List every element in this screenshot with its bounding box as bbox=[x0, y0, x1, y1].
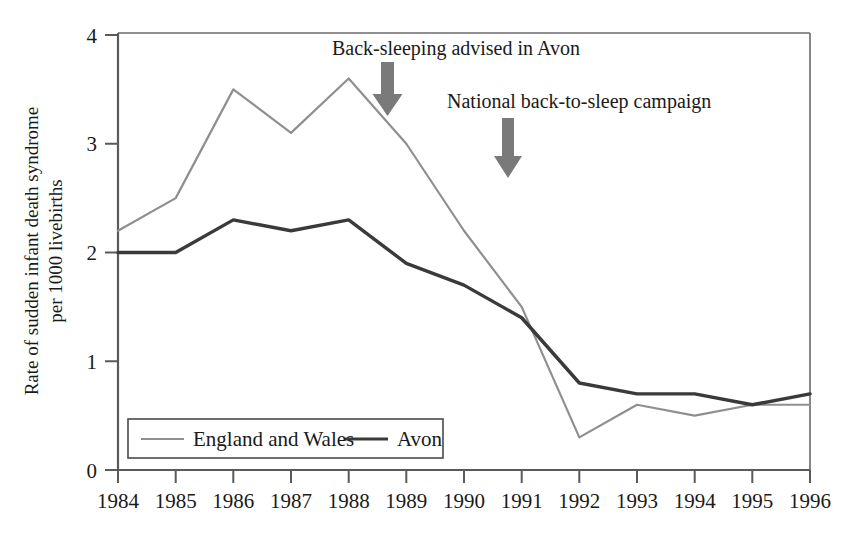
y-tick-label-3: 3 bbox=[87, 132, 98, 156]
down-arrow-icon-national-campaign bbox=[494, 118, 522, 178]
y-axis-title-line2: per 1000 livebirths bbox=[45, 179, 66, 323]
data-series-group bbox=[118, 79, 810, 438]
annotation-label-back-sleeping-avon: Back-sleeping advised in Avon bbox=[332, 37, 580, 60]
chart-legend[interactable]: England and Wales Avon bbox=[128, 419, 443, 458]
y-tick-label-2: 2 bbox=[87, 241, 98, 265]
annotation-national-campaign: National back-to-sleep campaign bbox=[447, 90, 711, 178]
y-tick-label-1: 1 bbox=[87, 350, 98, 374]
annotation-label-national-campaign: National back-to-sleep campaign bbox=[447, 90, 711, 113]
x-tick-label-1994: 1994 bbox=[674, 489, 717, 513]
down-arrow-icon-back-sleeping-avon bbox=[373, 62, 403, 116]
x-tick-label-1991: 1991 bbox=[501, 489, 543, 513]
x-tick-label-1986: 1986 bbox=[212, 489, 254, 513]
y-axis-title: Rate of sudden infant death syndrome per… bbox=[21, 107, 66, 396]
x-tick-label-1985: 1985 bbox=[155, 489, 197, 513]
y-axis-ticks bbox=[105, 35, 118, 470]
x-tick-label-1996: 1996 bbox=[789, 489, 831, 513]
x-tick-label-1989: 1989 bbox=[385, 489, 427, 513]
legend-label-avon: Avon bbox=[397, 427, 443, 451]
x-axis-tick-labels: 1984 1985 1986 1987 1988 1989 1990 1991 … bbox=[97, 489, 831, 513]
y-axis-title-line1: Rate of sudden infant death syndrome bbox=[21, 107, 42, 396]
x-tick-label-1992: 1992 bbox=[558, 489, 600, 513]
x-tick-label-1993: 1993 bbox=[616, 489, 658, 513]
x-axis-ticks bbox=[118, 470, 810, 483]
x-tick-label-1987: 1987 bbox=[270, 489, 312, 513]
y-tick-label-4: 4 bbox=[87, 24, 98, 48]
x-tick-label-1984: 1984 bbox=[97, 489, 140, 513]
x-tick-label-1988: 1988 bbox=[328, 489, 370, 513]
x-tick-label-1990: 1990 bbox=[443, 489, 485, 513]
chart-canvas: 0 1 2 3 4 Rate of sudden infant death sy… bbox=[0, 0, 864, 539]
legend-label-england-and-wales: England and Wales bbox=[193, 427, 354, 451]
series-line-england-and-wales bbox=[118, 79, 810, 438]
y-tick-label-0: 0 bbox=[87, 459, 98, 483]
y-axis-tick-labels: 0 1 2 3 4 bbox=[87, 24, 98, 483]
sids-rate-line-chart-figure: 0 1 2 3 4 Rate of sudden infant death sy… bbox=[0, 0, 864, 539]
series-line-avon bbox=[118, 220, 810, 405]
x-tick-label-1995: 1995 bbox=[731, 489, 773, 513]
